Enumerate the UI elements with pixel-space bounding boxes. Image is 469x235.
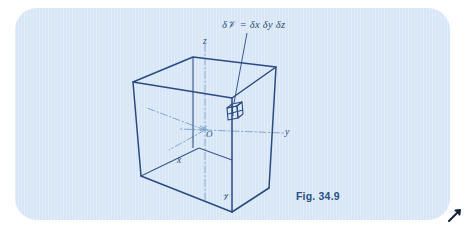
figure-caption: Fig. 34.9: [296, 190, 340, 202]
axis-label-x: x: [177, 155, 181, 165]
cube-inner-edges: [141, 148, 232, 176]
cube-edge-bottom-right: [232, 188, 269, 212]
origin-label: O: [206, 129, 213, 139]
cube-edge-front-left-vertical: [133, 82, 141, 176]
volume-element-equation-label: δ𝒱 = δx δy δz: [222, 19, 285, 31]
volume-element-cube: [227, 102, 243, 120]
volume-element-inner-line-2: [228, 110, 243, 114]
cube-diagram: [0, 0, 469, 235]
volume-region-label: 𝒱: [222, 192, 229, 203]
figure-root: δ𝒱 = δx δy δz z y x O 𝒱 Fig. 34.9: [0, 0, 469, 235]
cube-wireframe: [133, 57, 276, 212]
axis-x-line: [169, 130, 205, 150]
cube-top-face: [133, 57, 276, 98]
axis-label-z: z: [203, 36, 207, 46]
cube-edge-right-vertical: [269, 67, 276, 188]
volume-element-top-face: [227, 102, 242, 108]
axis-x-negative-line: [147, 108, 205, 130]
cube-inner-edge-left: [141, 148, 199, 176]
arrow-cursor-icon: [446, 206, 464, 224]
cube-edge-bottom-left: [141, 176, 232, 212]
cube-inner-edge-back: [199, 148, 232, 160]
axis-label-y: y: [285, 127, 289, 137]
